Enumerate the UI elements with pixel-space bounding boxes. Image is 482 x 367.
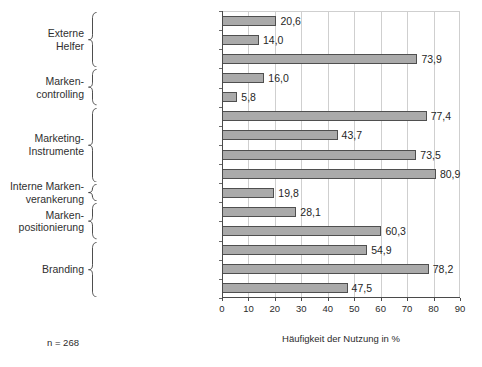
x-tick-label: 0 — [219, 303, 224, 314]
bar-value-label: 19,8 — [278, 187, 298, 198]
x-tick-label: 10 — [243, 303, 254, 314]
x-tick-label: 70 — [402, 303, 413, 314]
x-tick-label: 50 — [349, 303, 360, 314]
y-tick-mark — [219, 260, 222, 261]
x-tick-label: 60 — [375, 303, 386, 314]
x-tick-mark — [328, 298, 329, 301]
y-tick-mark — [219, 30, 222, 31]
bar-value-label: 14,0 — [263, 34, 283, 45]
bar — [222, 54, 417, 64]
y-tick-mark — [219, 68, 222, 69]
y-tick-mark — [219, 145, 222, 146]
bar-value-label: 54,9 — [371, 245, 391, 256]
y-tick-mark — [219, 221, 222, 222]
bar — [222, 16, 276, 26]
bar-value-label: 80,9 — [440, 168, 460, 179]
bar-value-label: 20,6 — [280, 15, 300, 26]
bar-value-label: 5,8 — [241, 92, 256, 103]
x-tick-mark — [275, 298, 276, 301]
bar — [222, 92, 237, 102]
x-tick-mark — [354, 298, 355, 301]
x-axis-line — [222, 297, 460, 298]
bar — [222, 283, 348, 293]
plot-top-border — [222, 11, 460, 12]
bar — [222, 226, 381, 236]
y-tick-mark — [219, 88, 222, 89]
y-tick-mark — [219, 11, 222, 12]
x-tick-label: 40 — [322, 303, 333, 314]
bar — [222, 111, 427, 121]
y-tick-mark — [219, 241, 222, 242]
x-tick-mark — [460, 298, 461, 301]
y-tick-mark — [219, 107, 222, 108]
bar-value-label: 28,1 — [300, 206, 320, 217]
x-tick-mark — [248, 298, 249, 301]
y-tick-mark — [219, 164, 222, 165]
bar — [222, 150, 416, 160]
plot-area: 20,614,073,916,05,877,443,773,580,919,82… — [222, 11, 460, 298]
bar-value-label: 16,0 — [268, 72, 288, 83]
bar-value-label: 78,2 — [433, 264, 453, 275]
bar — [222, 130, 338, 140]
x-tick-label: 80 — [428, 303, 439, 314]
bar — [222, 73, 264, 83]
bar — [222, 245, 367, 255]
bar-value-label: 43,7 — [342, 130, 362, 141]
x-tick-mark — [222, 298, 223, 301]
bar-value-label: 60,3 — [385, 226, 405, 237]
x-tick-mark — [381, 298, 382, 301]
bar-chart: Externe HelferMarken- controllingMarketi… — [0, 0, 482, 367]
x-tick-label: 90 — [455, 303, 466, 314]
x-axis-label: Häufigkeit der Nutzung in % — [222, 333, 460, 344]
bar — [222, 169, 436, 179]
y-tick-mark — [219, 49, 222, 50]
category-label-container: Zus. mit MarktforschungsunternehmenZus. … — [0, 0, 216, 367]
x-tick-mark — [434, 298, 435, 301]
bar — [222, 264, 429, 274]
bar-value-label: 77,4 — [431, 111, 451, 122]
bar-value-label: 73,5 — [420, 149, 440, 160]
x-tick-label: 30 — [296, 303, 307, 314]
bar-value-label: 73,9 — [421, 53, 441, 64]
plot-right-border — [459, 11, 460, 298]
bar-value-label: 47,5 — [352, 283, 372, 294]
bar — [222, 35, 259, 45]
y-tick-mark — [219, 126, 222, 127]
x-tick-mark — [301, 298, 302, 301]
sample-size-annotation: n = 268 — [47, 337, 79, 348]
bar — [222, 207, 296, 217]
y-tick-mark — [219, 279, 222, 280]
x-tick-label: 20 — [270, 303, 281, 314]
x-tick-mark — [407, 298, 408, 301]
y-tick-mark — [219, 202, 222, 203]
y-tick-mark — [219, 183, 222, 184]
y-axis-line — [222, 11, 223, 298]
bar — [222, 188, 274, 198]
